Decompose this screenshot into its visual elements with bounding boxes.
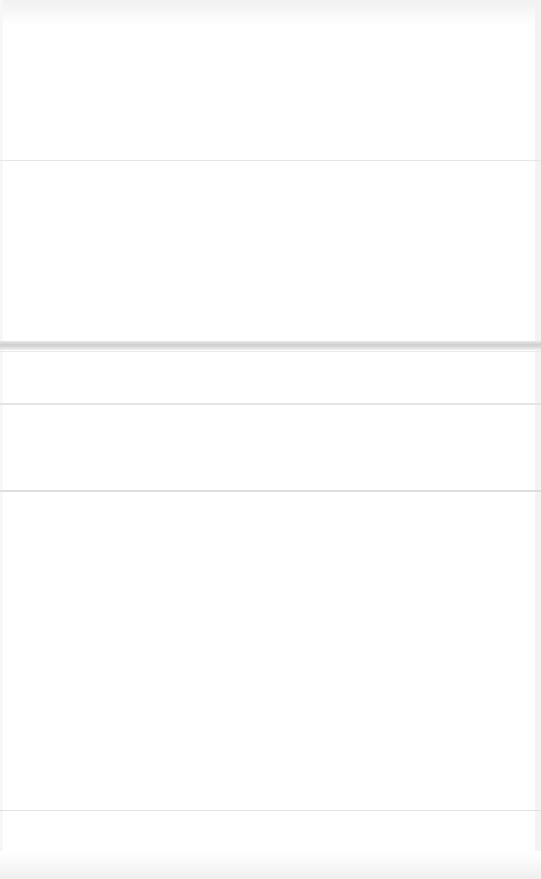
- separator-bar: [0, 341, 541, 350]
- section-panel-6: [3, 811, 535, 851]
- section-panel-4: [3, 405, 535, 490]
- section-panel-3: [3, 351, 535, 403]
- section-panel-2: [3, 161, 535, 341]
- section-panel-5: [3, 492, 535, 810]
- footer-band: [0, 851, 541, 879]
- header-band: [0, 0, 541, 26]
- section-panel-1: [3, 26, 535, 160]
- scrollbar-track[interactable]: [535, 0, 541, 879]
- blank-page: [0, 0, 541, 879]
